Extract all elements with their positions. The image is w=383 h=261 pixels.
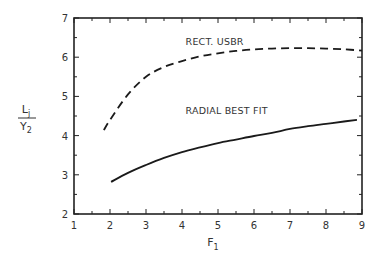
x-tick-label: 5 bbox=[215, 220, 221, 231]
x-axis-label: F1 bbox=[207, 236, 218, 252]
x-tick-label: 4 bbox=[179, 220, 185, 231]
radial-best-fit-curve bbox=[111, 120, 357, 182]
x-tick-label: 2 bbox=[107, 220, 113, 231]
x-tick-label: 9 bbox=[359, 220, 365, 231]
x-tick-label: 1 bbox=[71, 220, 77, 231]
y-tick-label: 4 bbox=[62, 131, 68, 142]
x-tick-labels: 123456789 bbox=[71, 220, 365, 231]
y-tick-label: 3 bbox=[62, 170, 68, 181]
x-tick-label: 7 bbox=[287, 220, 293, 231]
y-tick-label: 6 bbox=[62, 52, 68, 63]
line-chart: 123456789 234567 RECT. USBRRADIAL BEST F… bbox=[0, 0, 383, 261]
y-tick-labels: 234567 bbox=[62, 13, 68, 220]
svg-text:Y2: Y2 bbox=[19, 120, 32, 135]
y-tick-label: 7 bbox=[62, 13, 68, 24]
y-tick-label: 5 bbox=[62, 91, 68, 102]
x-tick-label: 3 bbox=[143, 220, 149, 231]
x-tick-label: 6 bbox=[251, 220, 257, 231]
radial-best-fit-label: RADIAL BEST FIT bbox=[186, 105, 268, 116]
svg-text:Lj: Lj bbox=[22, 103, 30, 118]
x-tick-label: 8 bbox=[323, 220, 329, 231]
rect-usbr-curve bbox=[104, 48, 362, 130]
rect-usbr-label: RECT. USBR bbox=[186, 36, 244, 47]
y-axis-label: Lj Y2 bbox=[18, 103, 36, 135]
y-tick-label: 2 bbox=[62, 209, 68, 220]
